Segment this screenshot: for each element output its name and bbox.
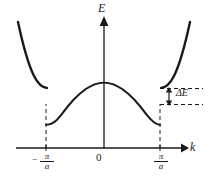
tick-numerator: π bbox=[154, 152, 168, 161]
tick-denominator: a bbox=[40, 161, 54, 171]
origin-label: 0 bbox=[96, 152, 102, 163]
x-axis-label: k bbox=[190, 141, 195, 153]
x-tick-label-pos-pi-over-a: π a bbox=[154, 152, 168, 172]
band-gap-arrow bbox=[166, 87, 172, 106]
minus-sign: − bbox=[32, 155, 37, 164]
tick-denominator: a bbox=[154, 161, 168, 171]
band-gap-arrowhead-up bbox=[166, 87, 172, 93]
x-axis-arrowhead bbox=[181, 143, 189, 152]
tick-numerator: π bbox=[40, 152, 54, 161]
y-axis-label: E bbox=[98, 2, 105, 14]
upper-band-curve-right bbox=[161, 22, 190, 88]
y-axis-arrowhead bbox=[100, 16, 109, 26]
x-tick-label-neg-pi-over-a: − π a bbox=[40, 152, 54, 172]
band-gap-label: ΔE bbox=[176, 88, 188, 98]
band-gap-arrowhead-down bbox=[166, 101, 172, 107]
upper-band-curve-left bbox=[18, 22, 47, 88]
band-diagram-figure: E k ΔE 0 − π a π a bbox=[0, 0, 215, 182]
lower-band-curve bbox=[46, 83, 160, 125]
